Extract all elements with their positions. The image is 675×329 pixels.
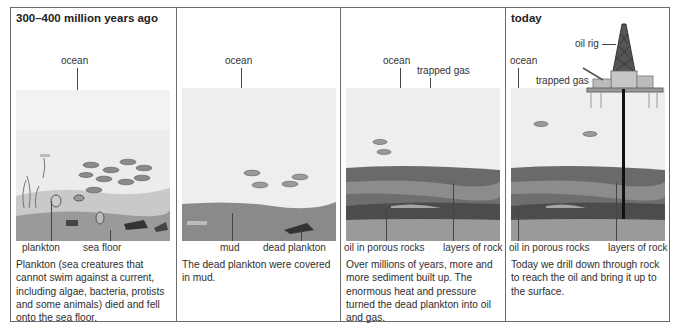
diagram-frame: 300–400 million years ago ocean <box>10 7 670 322</box>
panel-title: 300–400 million years ago <box>16 12 158 24</box>
panel-description: Today we drill down through rock to reac… <box>511 258 669 298</box>
plankton-pointer <box>51 201 52 241</box>
sea-floor-label: sea floor <box>83 242 121 253</box>
panel-description: Over millions of years, more and more se… <box>346 258 504 324</box>
panel-description: The dead plankton were covered in mud. <box>182 258 340 285</box>
oil-label: oil in porous rocks <box>509 242 590 253</box>
panel-oil-formation: ocean trapped gas oil in porous rocks la… <box>340 8 505 321</box>
rock-layers-pointer <box>453 183 454 241</box>
panel-mud-covering: ocean mud dead plankton The dead plankto… <box>176 8 340 321</box>
panel-today-drilling: today oil rig ocean trapped gas <box>505 8 670 321</box>
rock-layers-pointer <box>616 183 617 241</box>
plankton-label: plankton <box>22 242 60 253</box>
dead-plankton-label: dead plankton <box>263 242 326 253</box>
oil-rig-pointer <box>602 44 616 45</box>
mud-label: mud <box>220 242 239 253</box>
rock-layers-label: layers of rock <box>443 242 502 253</box>
mud-illustration <box>182 58 336 241</box>
oil-pointer <box>518 208 519 241</box>
panel-ancient-sea: 300–400 million years ago ocean <box>11 8 176 321</box>
dead-plankton-pointer <box>301 230 302 241</box>
sea-floor-pointer <box>110 230 111 241</box>
rock-layers-illustration <box>346 58 500 241</box>
oil-rig-illustration <box>511 16 665 241</box>
mud-pointer <box>232 213 233 241</box>
panel-description: Plankton (sea creatures that cannot swim… <box>16 258 174 324</box>
rock-layers-label: layers of rock <box>608 242 667 253</box>
ancient-sea-illustration <box>16 58 170 241</box>
oil-label: oil in porous rocks <box>344 242 425 253</box>
oil-pointer <box>386 208 387 241</box>
